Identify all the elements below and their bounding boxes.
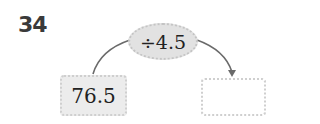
operation-label: ÷4.5 xyxy=(140,31,186,53)
left-arc xyxy=(93,40,130,74)
right-arc xyxy=(197,40,232,72)
operation-oval: ÷4.5 xyxy=(128,23,198,60)
arrow-head-icon xyxy=(228,70,236,77)
input-value: 76.5 xyxy=(71,84,116,108)
answer-box[interactable] xyxy=(201,78,266,116)
input-box: 76.5 xyxy=(60,75,127,116)
